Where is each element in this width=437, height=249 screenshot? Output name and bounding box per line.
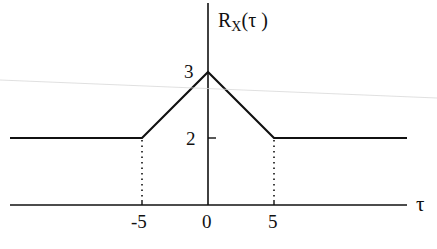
- x-axis-label: τ: [416, 194, 424, 215]
- y-tick-label-2: 2: [186, 129, 196, 148]
- x-tick-label-5: 5: [268, 212, 278, 231]
- x-tick-label-neg5: -5: [131, 212, 147, 231]
- y-axis-label: RX(τ ): [218, 10, 268, 34]
- y-tick-label-3: 3: [184, 62, 194, 81]
- x-tick-label-0: 0: [202, 212, 212, 231]
- plot-canvas: [0, 0, 437, 249]
